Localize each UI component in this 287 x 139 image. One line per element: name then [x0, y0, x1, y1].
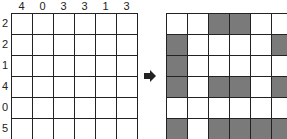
grid-cell: [117, 98, 138, 119]
filled-cell: [272, 35, 287, 56]
empty-cell: [188, 98, 209, 119]
grid-cell: [54, 14, 75, 35]
column-clues: 4 0 3 3 1 3: [11, 0, 137, 12]
empty-cell: [167, 98, 188, 119]
empty-cell: [209, 56, 230, 77]
grid-cell: [54, 119, 75, 139]
empty-cell: [230, 35, 251, 56]
grid-cell: [117, 77, 138, 98]
grid-cell: [54, 56, 75, 77]
grid-cell: [96, 35, 117, 56]
grid-cell: [96, 98, 117, 119]
empty-cell: [188, 56, 209, 77]
empty-cell: [167, 14, 188, 35]
grid-cell: [12, 77, 33, 98]
grid-cell: [96, 56, 117, 77]
filled-cell: [209, 14, 230, 35]
empty-cell: [272, 98, 287, 119]
grid-cell: [33, 56, 54, 77]
grid-cell: [75, 119, 96, 139]
empty-cell: [272, 56, 287, 77]
grid-cell: [33, 98, 54, 119]
column-clue: 3: [116, 0, 137, 12]
filled-cell: [230, 77, 251, 98]
empty-cell: [251, 56, 272, 77]
empty-cell: [251, 14, 272, 35]
row-clue: 4: [0, 76, 10, 97]
grid-cell: [33, 119, 54, 139]
row-clue: 1: [0, 55, 10, 76]
empty-cell: [188, 14, 209, 35]
column-clue: 4: [11, 0, 32, 12]
empty-cell: [251, 77, 272, 98]
grid-cell: [75, 77, 96, 98]
row-clues: 2 2 1 4 0 5: [0, 13, 10, 139]
grid-cell: [75, 56, 96, 77]
empty-cell: [188, 119, 209, 139]
empty-cell: [209, 98, 230, 119]
grid-cell: [75, 98, 96, 119]
filled-cell: [209, 77, 230, 98]
filled-cell: [167, 56, 188, 77]
empty-cell: [188, 35, 209, 56]
grid-cell: [96, 119, 117, 139]
grid-cell: [75, 35, 96, 56]
row-clue: 2: [0, 34, 10, 55]
empty-cell: [230, 98, 251, 119]
filled-cell: [272, 119, 287, 139]
grid-cell: [12, 35, 33, 56]
filled-cell: [167, 77, 188, 98]
grid-cell: [33, 77, 54, 98]
filled-cell: [272, 77, 287, 98]
row-clue: 2: [0, 13, 10, 34]
grid-cell: [12, 14, 33, 35]
grid-cell: [96, 14, 117, 35]
solution-grid: [166, 13, 287, 139]
filled-cell: [230, 119, 251, 139]
empty-puzzle-grid: [11, 13, 138, 139]
filled-cell: [167, 35, 188, 56]
grid-cell: [33, 35, 54, 56]
grid-cell: [117, 35, 138, 56]
grid-cell: [33, 14, 54, 35]
grid-cell: [117, 56, 138, 77]
grid-cell: [75, 14, 96, 35]
empty-cell: [188, 77, 209, 98]
grid-cell: [54, 98, 75, 119]
row-clue: 0: [0, 97, 10, 118]
column-clue: 3: [74, 0, 95, 12]
column-clue: 0: [32, 0, 53, 12]
grid-cell: [12, 98, 33, 119]
filled-cell: [167, 119, 188, 139]
grid-cell: [117, 14, 138, 35]
empty-cell: [251, 35, 272, 56]
empty-cell: [272, 14, 287, 35]
empty-cell: [251, 98, 272, 119]
filled-cell: [230, 14, 251, 35]
grid-cell: [12, 119, 33, 139]
column-clue: 3: [53, 0, 74, 12]
column-clue: 1: [95, 0, 116, 12]
row-clue: 5: [0, 118, 10, 139]
filled-cell: [251, 119, 272, 139]
empty-cell: [230, 56, 251, 77]
grid-cell: [12, 56, 33, 77]
grid-cell: [96, 77, 117, 98]
grid-cell: [54, 77, 75, 98]
grid-cell: [54, 35, 75, 56]
empty-cell: [209, 35, 230, 56]
grid-cell: [117, 119, 138, 139]
filled-cell: [209, 119, 230, 139]
